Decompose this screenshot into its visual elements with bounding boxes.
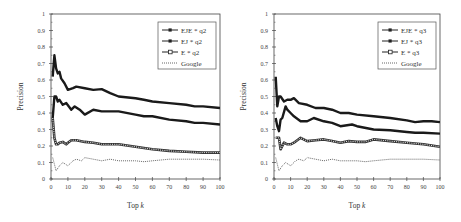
legend: EJE * q2EJ * q2E * q2Google [158,22,216,69]
precision-chart-q2: 00.10.20.30.40.50.60.70.80.9101020304050… [0,0,230,222]
y-tick-label: 0.5 [261,94,269,100]
chart-q2-canvas: 00.10.20.30.40.50.60.70.80.9101020304050… [0,0,230,222]
y-tick-label: 1 [42,11,45,17]
y-tick-label: 0.9 [261,28,269,34]
x-tick-label: 40 [337,184,343,190]
legend-label: EJE * q2 [181,27,207,35]
x-tick-label: 70 [166,184,172,190]
legend-marker-filled-icon [169,28,172,31]
y-tick-label: 0.3 [38,127,46,133]
legend-label: Google [401,60,422,68]
y-tick-label: 0.6 [261,77,269,83]
x-tick-label: 10 [65,184,71,190]
x-tick-label: 80 [183,184,189,190]
chart-q3-canvas: 00.10.20.30.40.50.60.70.80.9101020304050… [223,0,453,222]
y-tick-label: 0.1 [38,160,46,166]
x-axis-title: Top k [127,201,144,210]
y-tick-label: 0 [42,176,45,182]
legend-label: EJE * q3 [401,27,427,35]
x-tick-label: 30 [321,184,327,190]
x-tick-label: 30 [99,184,105,190]
y-tick-label: 0.2 [38,143,46,149]
x-tick-label: 90 [420,184,426,190]
x-tick-label: 60 [149,184,155,190]
x-tick-label: 0 [50,184,53,190]
legend-label: EJ * q2 [181,38,203,46]
series-line-ej-q2 [53,97,220,125]
legend-marker-square-icon [389,50,393,54]
series-group [53,55,220,171]
series-line-ej-q3 [276,106,440,133]
x-tick-label: 20 [82,184,88,190]
precision-chart-q3: 00.10.20.30.40.50.60.70.80.9101020304050… [223,0,453,222]
legend-marker-filled-icon [389,39,392,42]
y-tick-label: 0 [265,176,268,182]
legend-marker-square-icon [169,50,173,54]
legend-label: Google [181,60,202,68]
x-tick-label: 60 [371,184,377,190]
series-line-google [53,158,220,171]
legend: EJE * q3EJ * q3E * q3Google [378,22,436,69]
legend-marker-filled-icon [169,39,172,42]
y-tick-label: 0.4 [38,110,46,116]
legend-label: EJ * q3 [401,38,423,46]
x-tick-label: 0 [273,184,276,190]
x-tick-label: 70 [387,184,393,190]
series-line-eje-q3 [276,77,440,122]
y-tick-label: 0.2 [261,143,269,149]
x-tick-label: 100 [436,184,445,190]
y-tick-label: 0.8 [38,44,46,50]
x-tick-label: 50 [354,184,360,190]
y-tick-label: 0.7 [261,61,269,67]
series-group [276,77,440,171]
series-line-google [276,158,440,171]
y-tick-label: 0.9 [38,28,46,34]
legend-label: E * q3 [401,49,420,57]
x-tick-label: 80 [404,184,410,190]
y-axis-title: Precision [16,82,25,110]
y-tick-label: 0.7 [38,61,46,67]
series-line-e-q3 [276,138,440,150]
y-tick-label: 0.4 [261,110,269,116]
y-tick-label: 0.1 [261,160,269,166]
x-axis-title: Top k [349,201,366,210]
x-tick-label: 50 [133,184,139,190]
y-axis-title: Precision [239,82,248,110]
x-tick-label: 20 [304,184,310,190]
y-tick-label: 0.8 [261,44,269,50]
legend-label: E * q2 [181,49,200,57]
y-tick-label: 0.3 [261,127,269,133]
legend-marker-filled-icon [389,28,392,31]
y-tick-label: 0.6 [38,77,46,83]
x-tick-label: 90 [200,184,206,190]
x-tick-label: 10 [288,184,294,190]
y-tick-label: 0.5 [38,94,46,100]
x-tick-label: 40 [116,184,122,190]
y-tick-label: 1 [265,11,268,17]
